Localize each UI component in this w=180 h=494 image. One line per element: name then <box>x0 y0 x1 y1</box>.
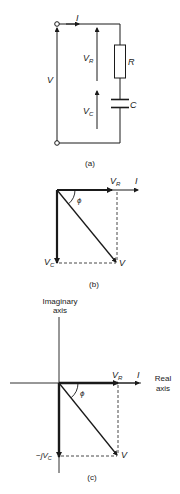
terminal-bottom <box>55 141 60 146</box>
real-axis-label-line2: axis <box>156 384 170 393</box>
phasor-diagram: VR I ϕ VC V (b) <box>44 176 138 289</box>
current-label: I <box>135 176 138 186</box>
resistor-label: R <box>128 57 135 67</box>
capacitor-label: C <box>130 100 137 110</box>
phase-angle-arc <box>68 190 75 204</box>
phase-angle-arc <box>71 383 78 398</box>
v-phasor <box>59 383 117 455</box>
resistor-voltage-label: VR <box>83 53 94 64</box>
resistor-symbol <box>115 45 126 78</box>
top-wire <box>59 24 120 45</box>
imaginary-axis-label-line2: axis <box>53 306 67 315</box>
v-label: V <box>121 450 128 460</box>
real-axis-label-line1: Real <box>155 374 172 383</box>
vc-label: −jVC <box>36 451 52 461</box>
vc-label: VC <box>44 257 55 268</box>
angle-label: ϕ <box>80 389 85 398</box>
caption-a: (a) <box>85 159 95 168</box>
current-label: I <box>137 370 140 380</box>
terminal-top <box>55 22 60 27</box>
caption-c: (c) <box>87 473 97 482</box>
imaginary-axis-label-line1: Imaginary <box>42 297 77 306</box>
angle-label: ϕ <box>77 196 82 205</box>
caption-b: (b) <box>89 280 99 289</box>
vr-label: VR <box>112 370 123 381</box>
capacitor-voltage-label: VC <box>83 106 94 117</box>
complex-plane-diagram: Imaginary axis Real axis VR I ϕ −jVC V (… <box>10 297 171 482</box>
source-voltage-label: V <box>47 75 54 85</box>
vr-label: VR <box>110 176 121 187</box>
v-phasor <box>57 190 116 262</box>
current-label: I <box>76 13 79 23</box>
v-label: V <box>119 258 126 268</box>
rc-series-circuit-figure: I V VR VC R C (a) VR I ϕ VC V (b) <box>0 0 180 494</box>
circuit-diagram: I V VR VC R C (a) <box>47 13 137 168</box>
